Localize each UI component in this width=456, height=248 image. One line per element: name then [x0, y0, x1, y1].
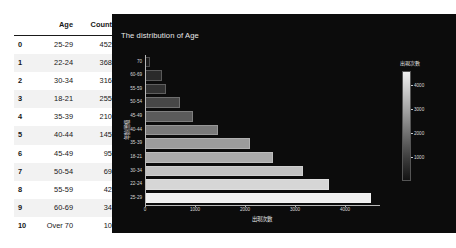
cell-index: 4 [14, 108, 35, 126]
table-row: 318-212554 [14, 90, 112, 108]
cell-age: 18-21 [35, 90, 77, 108]
cell-counts: 698 [77, 163, 112, 181]
y-tick-label: 60-69 [130, 70, 142, 81]
bar-row: 25-29 [145, 193, 380, 204]
colorbar: 出現次數 4000300020001000 [400, 59, 452, 209]
cell-counts: 958 [77, 145, 112, 163]
bar-row: 30-34 [145, 166, 380, 177]
bar-row: 60-69 [145, 70, 380, 81]
y-tick-label: 70 [137, 57, 142, 68]
table-row: 645-49958 [14, 145, 112, 163]
y-tick-label: 40-44 [130, 125, 142, 136]
colorbar-tick-label: 3000 [414, 107, 424, 112]
x-tick-label: 1000 [190, 207, 200, 212]
cell-counts: 2101 [77, 108, 112, 126]
bar [145, 97, 180, 108]
x-tick-label: 2000 [240, 207, 250, 212]
bar-row: 40-44 [145, 125, 380, 136]
bar-row: 45-49 [145, 111, 380, 122]
column-header-age: Age [35, 14, 77, 36]
cell-index: 1 [14, 54, 35, 72]
cell-index: 6 [14, 145, 35, 163]
x-tick-label: 4000 [340, 207, 350, 212]
bar-row: 70 [145, 57, 380, 68]
cell-index: 9 [14, 199, 35, 217]
age-counts-table: Age Counts 025-294527122-243680230-34316… [14, 14, 112, 233]
table-row: 230-343163 [14, 72, 112, 90]
cell-counts: 100 [77, 217, 112, 233]
cell-index: 10 [14, 217, 35, 233]
table-row: 435-392101 [14, 108, 112, 126]
bar [145, 70, 162, 81]
colorbar-tick-label: 1000 [414, 155, 424, 160]
cell-age: 50-54 [35, 163, 77, 181]
cell-counts: 4527 [77, 36, 112, 55]
table-row: 750-54698 [14, 163, 112, 181]
cell-counts: 1452 [77, 126, 112, 144]
bar [145, 193, 371, 204]
table-row: 960-69341 [14, 199, 112, 217]
colorbar-tick-mark [411, 133, 413, 134]
table-row: 025-294527 [14, 36, 112, 55]
y-tick-label: 55-59 [130, 84, 142, 95]
colorbar-tick-mark [411, 157, 413, 158]
dataframe-panel: Age Counts 025-294527122-243680230-34316… [14, 14, 112, 233]
x-axis-title: 出現次數 [252, 215, 272, 223]
cell-index: 0 [14, 36, 35, 55]
cell-age: 30-34 [35, 72, 77, 90]
cell-age: 35-39 [35, 108, 77, 126]
cell-age: 60-69 [35, 199, 77, 217]
bar [145, 84, 166, 95]
cell-age: Over 70 [35, 217, 77, 233]
bar [145, 111, 193, 122]
y-tick-label: 35-39 [130, 138, 142, 149]
plot-area: 7060-6955-5950-5445-4940-4435-3918-2130-… [145, 55, 380, 205]
cell-age: 40-44 [35, 126, 77, 144]
column-header-index [14, 14, 35, 36]
x-tick-label: 0 [144, 207, 147, 212]
table-header: Age Counts [14, 14, 112, 36]
colorbar-gradient [402, 71, 411, 181]
y-tick-label: 18-21 [130, 152, 142, 163]
bar [145, 138, 250, 149]
screenshot-root: Age Counts 025-294527122-243680230-34316… [0, 0, 456, 248]
cell-index: 3 [14, 90, 35, 108]
y-axis-title: 年齡層級 [123, 120, 131, 140]
y-tick-label: 45-49 [130, 111, 142, 122]
chart-title: The distribution of Age [121, 31, 199, 40]
cell-counts: 3163 [77, 72, 112, 90]
cell-index: 2 [14, 72, 35, 90]
colorbar-tick-mark [411, 85, 413, 86]
table-row: 540-441452 [14, 126, 112, 144]
y-axis-line [145, 55, 146, 206]
table-row: 10Over 70100 [14, 217, 112, 233]
cell-index: 7 [14, 163, 35, 181]
y-tick-label: 22-24 [130, 179, 142, 190]
y-tick-label: 25-29 [130, 193, 142, 204]
table-body: 025-294527122-243680230-343163318-212554… [14, 36, 112, 234]
x-tick-label: 3000 [290, 207, 300, 212]
chart-panel: The distribution of Age 7060-6955-5950-5… [112, 14, 456, 233]
column-header-counts: Counts [77, 14, 112, 36]
cell-age: 25-29 [35, 36, 77, 55]
cell-index: 5 [14, 126, 35, 144]
bar-row: 35-39 [145, 138, 380, 149]
y-tick-label: 30-34 [130, 166, 142, 177]
colorbar-tick-label: 4000 [414, 83, 424, 88]
cell-counts: 3680 [77, 54, 112, 72]
colorbar-title: 出現次數 [400, 59, 420, 66]
cell-age: 55-59 [35, 181, 77, 199]
y-tick-label: 50-54 [130, 97, 142, 108]
colorbar-tick-label: 2000 [414, 131, 424, 136]
table-row: 122-243680 [14, 54, 112, 72]
cell-index: 8 [14, 181, 35, 199]
bar-row: 55-59 [145, 84, 380, 95]
cell-counts: 427 [77, 181, 112, 199]
bar-row: 22-24 [145, 179, 380, 190]
cell-counts: 341 [77, 199, 112, 217]
cell-age: 45-49 [35, 145, 77, 163]
colorbar-tick-mark [411, 109, 413, 110]
table-row: 855-59427 [14, 181, 112, 199]
bar [145, 125, 218, 136]
bar-row: 50-54 [145, 97, 380, 108]
